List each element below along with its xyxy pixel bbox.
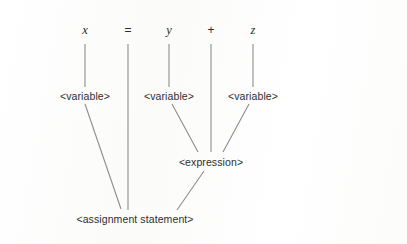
tree-edges-layer [0, 0, 407, 244]
token-x: x [82, 23, 88, 38]
edge-vary-expr [172, 104, 198, 152]
token-equals: = [124, 23, 131, 37]
edge-varx-assign [85, 104, 121, 209]
node-variable-y: <variable> [144, 90, 194, 102]
token-z: z [251, 23, 256, 38]
token-y: y [166, 23, 172, 38]
edge-expr-assign [177, 171, 204, 210]
node-variable-x: <variable> [60, 90, 110, 102]
parse-tree-diagram: x = y + z <variable> <variable> <variabl… [0, 0, 407, 244]
node-assignment-statement: <assignment statement> [76, 213, 193, 225]
node-expression: <expression> [179, 156, 243, 168]
edge-varz-expr [223, 104, 249, 152]
token-plus: + [207, 23, 214, 37]
node-variable-z: <variable> [228, 90, 278, 102]
